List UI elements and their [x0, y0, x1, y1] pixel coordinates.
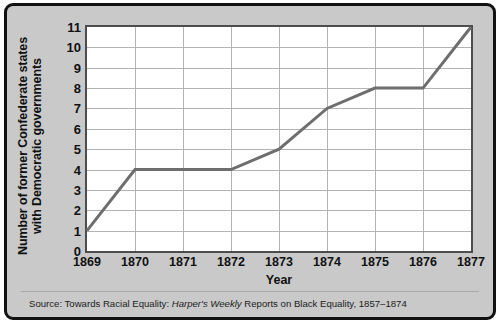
x-axis-title: Year	[85, 273, 473, 287]
y-axis-tick-label: 10	[51, 41, 81, 54]
chart-frame: Number of former Confederate states with…	[4, 3, 496, 320]
x-axis-tick-label: 1874	[302, 256, 352, 269]
y-axis-tick-label: 3	[51, 183, 81, 196]
y-axis-tick-labels: 01234567891011	[47, 25, 81, 253]
x-axis-tick-label: 1871	[158, 256, 208, 269]
y-axis-tick-label: 7	[51, 102, 81, 115]
y-axis-tick-label: 4	[51, 163, 81, 176]
y-axis-tick-label: 1	[51, 224, 81, 237]
y-axis-tick-label: 2	[51, 204, 81, 217]
chart-figure: Number of former Confederate states with…	[0, 0, 500, 324]
y-axis-title: Number of former Confederate states with…	[8, 31, 52, 261]
y-axis-tick-label: 11	[51, 21, 81, 34]
source-prefix: Source: Towards Racial Equality:	[29, 298, 172, 309]
x-axis-tick-label: 1870	[110, 256, 160, 269]
y-axis-tick-label: 6	[51, 122, 81, 135]
x-axis-tick-label: 1876	[398, 256, 448, 269]
source-note: Source: Towards Racial Equality: Harper'…	[29, 298, 479, 310]
x-axis-tick-label: 1869	[62, 256, 112, 269]
y-axis-tick-label: 9	[51, 61, 81, 74]
x-axis-tick-labels: 186918701871187218731874187518761877	[85, 256, 473, 274]
y-axis-tick-label: 8	[51, 82, 81, 95]
x-axis-tick-label: 1872	[206, 256, 256, 269]
plot-area	[85, 25, 473, 253]
x-axis-tick-label: 1873	[254, 256, 304, 269]
y-axis-title-line-2: with Democratic governments	[30, 58, 44, 234]
x-axis-tick-label: 1877	[446, 256, 496, 269]
source-separator	[21, 291, 479, 292]
y-axis-title-line-1: Number of former Confederate states	[16, 37, 30, 255]
source-italic-title: Harper's Weekly	[172, 298, 242, 309]
x-axis-tick-label: 1875	[350, 256, 400, 269]
source-suffix: Reports on Black Equality, 1857–1874	[242, 298, 407, 309]
y-axis-tick-label: 5	[51, 143, 81, 156]
data-line-series	[87, 27, 471, 251]
data-line	[87, 27, 471, 231]
